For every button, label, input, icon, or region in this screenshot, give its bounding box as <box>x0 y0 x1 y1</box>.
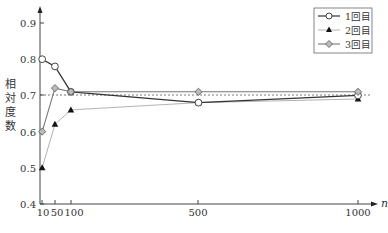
y-tick-label: 0.6 <box>20 127 36 138</box>
legend: 1回目 2回目 3回目 <box>314 8 372 53</box>
x-tick-label: 50 <box>51 207 64 218</box>
diamond-marker-icon <box>195 88 202 95</box>
y-tick-label: 0.8 <box>20 54 36 65</box>
svg-text:度: 度 <box>5 105 16 119</box>
relative-frequency-chart: n 相 対 度 数 0.4 0.5 0.6 0.7 0.8 0.9 10 50 … <box>0 0 388 233</box>
y-tick-label: 0.9 <box>20 18 36 29</box>
open-circle-marker-icon <box>39 56 46 63</box>
y-axis-arrow-icon <box>38 6 43 13</box>
x-tick-label: 500 <box>188 207 207 218</box>
svg-text:2回目: 2回目 <box>345 25 371 36</box>
y-axis-label: 相 対 度 数 <box>5 78 16 133</box>
x-tick-label: 10 <box>37 207 50 218</box>
series-1 <box>39 56 362 106</box>
series-2 <box>39 96 361 171</box>
open-circle-marker-icon <box>326 13 332 19</box>
svg-text:3回目: 3回目 <box>345 39 371 50</box>
open-circle-marker-icon <box>52 63 59 70</box>
x-tick-label: 1000 <box>345 207 370 218</box>
series-layer <box>39 56 362 171</box>
open-circle-marker-icon <box>195 99 202 106</box>
svg-text:数: 数 <box>5 120 16 133</box>
series-line <box>42 59 358 102</box>
y-tick-label: 0.4 <box>20 199 36 210</box>
x-axis-name: n <box>381 197 388 210</box>
diamond-marker-icon <box>51 85 58 92</box>
series-3 <box>39 85 362 136</box>
x-tick-label: 100 <box>64 207 83 218</box>
svg-text:1回目: 1回目 <box>345 11 371 22</box>
y-tick-label: 0.7 <box>20 90 36 101</box>
series-line <box>42 99 358 168</box>
svg-text:相: 相 <box>5 78 16 91</box>
x-axis-arrow-icon <box>371 202 378 207</box>
svg-text:対: 対 <box>5 91 16 105</box>
y-tick-label: 0.5 <box>20 163 36 174</box>
x-ticks: 10 50 100 500 1000 <box>37 200 371 218</box>
